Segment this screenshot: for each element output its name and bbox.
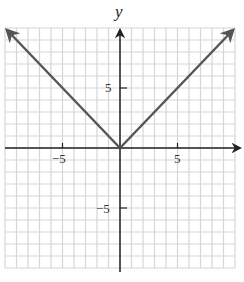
x-tick-label-5: 5 (174, 151, 181, 167)
y-tick-label-neg5: −5 (96, 201, 110, 217)
curve-right-branch (120, 30, 233, 148)
x-tick-label-neg5: −5 (52, 151, 66, 167)
y-axis-title: y (115, 2, 123, 22)
y-tick-label-5: 5 (105, 80, 112, 96)
graph-plot (0, 0, 244, 282)
curve-left-branch (7, 30, 120, 148)
